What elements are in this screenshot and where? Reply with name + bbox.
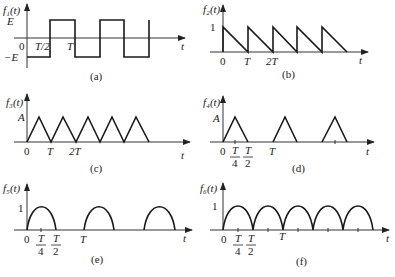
tick-fraction-half: T 2 [51,232,61,257]
level-top: 1 [18,202,24,214]
tick-fraction-quarter: T 4 [230,144,240,169]
svg-text:T: T [38,232,45,244]
tick-label: T [47,145,54,157]
tick-fraction-half: T 2 [246,232,256,257]
y-axis-label: f₃(t) [6,96,24,109]
tick-label: 2T [69,145,82,157]
origin-label: 0 [221,233,227,245]
level-top: A [17,111,25,123]
tick-label: 2T [266,55,279,67]
x-axis-label: t [181,149,185,161]
origin-label: 0 [19,40,25,52]
svg-text:T: T [53,232,60,244]
x-axis-label: t [181,40,185,52]
level-top: 1 [210,21,216,33]
level-top: 1 [212,200,218,212]
caption: (e) [91,253,104,266]
sawtooth-wave [223,27,347,52]
half-wave-sine [27,207,175,230]
triangle-wave [27,117,149,142]
tick-fraction-quarter: T 4 [36,232,46,257]
tick-label: T [279,230,286,242]
svg-text:4: 4 [232,157,238,169]
panel-d: f₄(t) A 0 T 4 T 2 T t (d) [203,96,374,175]
origin-label: 0 [24,145,30,157]
tick-label: T [244,55,251,67]
caption: (b) [282,68,295,81]
tick-fraction-quarter: T 4 [233,232,243,257]
x-axis-label: t [386,232,390,244]
y-axis-label: f₅(t) [3,182,21,195]
panel-f: f₆(t) 1 0 T 4 T 2 T t (f) [200,182,390,268]
y-axis-label: f₆(t) [200,182,218,195]
tick-label: T [269,145,276,157]
triangle-pulse-train [223,117,347,142]
origin-label: 0 [220,55,226,67]
svg-text:2: 2 [245,157,251,169]
svg-text:T: T [235,232,242,244]
tick-label: T [67,40,74,52]
signal-diagram: f₁(t) E −E 0 T/2 T t (a) f₂(t) 1 0 T 2T … [0,0,395,277]
level-top: E [6,15,14,27]
panel-a: f₁(t) E −E 0 T/2 T t (a) [3,4,185,83]
panel-c: f₃(t) A 0 T 2T t (c) [6,94,190,175]
full-wave-sine [223,206,373,230]
caption: (f) [296,255,307,268]
tick-fraction-half: T 2 [243,144,253,169]
svg-text:T: T [248,232,255,244]
y-axis-label: f₄(t) [203,96,221,109]
x-axis-label: t [359,54,363,66]
x-axis-label: t [366,145,370,157]
x-axis-label: t [183,232,187,244]
caption: (d) [292,162,305,175]
level-bottom: −E [4,51,18,63]
tick-label: T [80,233,87,245]
svg-text:2: 2 [248,245,254,257]
tick-label: T/2 [35,40,50,52]
origin-label: 0 [220,145,226,157]
caption: (c) [90,162,103,175]
svg-text:4: 4 [235,245,241,257]
svg-text:T: T [232,144,239,156]
svg-text:T: T [245,144,252,156]
svg-text:4: 4 [38,245,44,257]
y-axis-label: f₂(t) [203,3,221,16]
svg-text:2: 2 [53,245,59,257]
origin-label: 0 [24,233,30,245]
level-top: A [212,112,220,124]
panel-b: f₂(t) 1 0 T 2T t (b) [203,3,368,81]
caption: (a) [90,70,103,83]
panel-e: f₅(t) 1 0 T 4 T 2 T t (e) [3,182,192,266]
